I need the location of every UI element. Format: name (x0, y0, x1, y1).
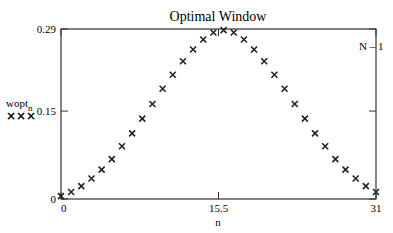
data-point-marker (78, 183, 84, 189)
right-annotation: N – 1 (359, 40, 383, 52)
chart: Optimal Window 00.150.29 015.531 n woptn… (0, 0, 393, 233)
data-point-marker (129, 130, 135, 136)
data-point-marker (149, 101, 155, 107)
data-series-wopt (58, 27, 379, 199)
plot-frame (61, 29, 376, 199)
data-point-marker (200, 37, 206, 43)
data-point-marker (180, 58, 186, 64)
data-point-marker (119, 143, 125, 149)
data-point-marker (109, 156, 115, 162)
data-point-marker (68, 189, 74, 195)
data-point-marker (99, 167, 105, 173)
y-label-base: wopt (6, 97, 28, 109)
legend-marker: ××× (6, 109, 36, 123)
data-point-marker (322, 143, 328, 149)
chart-title: Optimal Window (170, 9, 268, 24)
data-point-marker (170, 72, 176, 78)
data-point-marker (88, 175, 94, 181)
x-axis-label: n (215, 216, 221, 228)
data-point-marker (271, 72, 277, 78)
data-point-marker (343, 167, 349, 173)
data-point-marker (210, 30, 216, 36)
data-point-marker (332, 156, 338, 162)
y-tick-label: 0 (51, 193, 57, 205)
data-point-marker (241, 37, 247, 43)
x-tick-label: 15.5 (209, 202, 229, 214)
data-point-marker (160, 86, 166, 92)
y-tick-label: 0.29 (37, 23, 57, 35)
data-point-marker (312, 130, 318, 136)
x-tick-label: 0 (61, 202, 67, 214)
data-point-marker (251, 47, 257, 53)
data-point-marker (302, 116, 308, 122)
y-tick-label: 0.15 (37, 105, 57, 117)
y-axis: 00.150.29 (37, 23, 376, 205)
y-axis-legend: woptn ××× (6, 97, 36, 123)
data-point-marker (261, 58, 267, 64)
data-point-marker (139, 116, 145, 122)
data-point-marker (231, 30, 237, 36)
data-point-marker (363, 183, 369, 189)
x-axis: 015.531 (61, 29, 382, 214)
data-point-marker (221, 27, 227, 33)
data-point-marker (353, 175, 359, 181)
data-point-marker (190, 47, 196, 53)
data-point-marker (282, 86, 288, 92)
data-point-marker (292, 101, 298, 107)
x-tick-label: 31 (371, 202, 382, 214)
